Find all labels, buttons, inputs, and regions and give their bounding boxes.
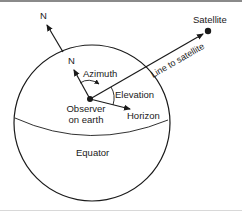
observer-label-line1: Observer <box>64 104 108 114</box>
observer-dot <box>87 96 93 102</box>
diagram-frame: Line to satellite N N Satellite Azimuth … <box>0 0 242 213</box>
observer-label-line2: on earth <box>64 115 108 125</box>
north-outer-label: N <box>40 11 47 21</box>
outer-north-arrow <box>47 25 63 52</box>
diagram-canvas: Line to satellite <box>0 0 242 213</box>
horizon-label: Horizon <box>127 111 160 121</box>
azimuth-label: Azimuth <box>83 69 117 79</box>
elevation-label: Elevation <box>115 90 154 100</box>
azimuth-arc <box>80 80 99 84</box>
satellite-label: Satellite <box>193 15 227 25</box>
north-inner-label: N <box>68 56 75 66</box>
equator-label: Equator <box>76 148 109 158</box>
satellite-dot <box>205 28 211 34</box>
elevation-arc <box>111 87 114 105</box>
